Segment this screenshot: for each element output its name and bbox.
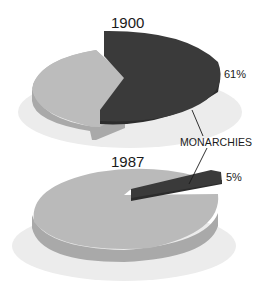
pie-1900-percent-label: 61% — [224, 68, 246, 80]
pie-1987-title: 1987 — [111, 153, 144, 170]
pie-1987-percent-label: 5% — [226, 171, 242, 183]
category-label-monarchies: MONARCHIES — [180, 136, 252, 148]
pie-1987 — [12, 169, 236, 281]
pie-1900-title: 1900 — [111, 14, 144, 31]
pie-1900 — [18, 31, 242, 148]
